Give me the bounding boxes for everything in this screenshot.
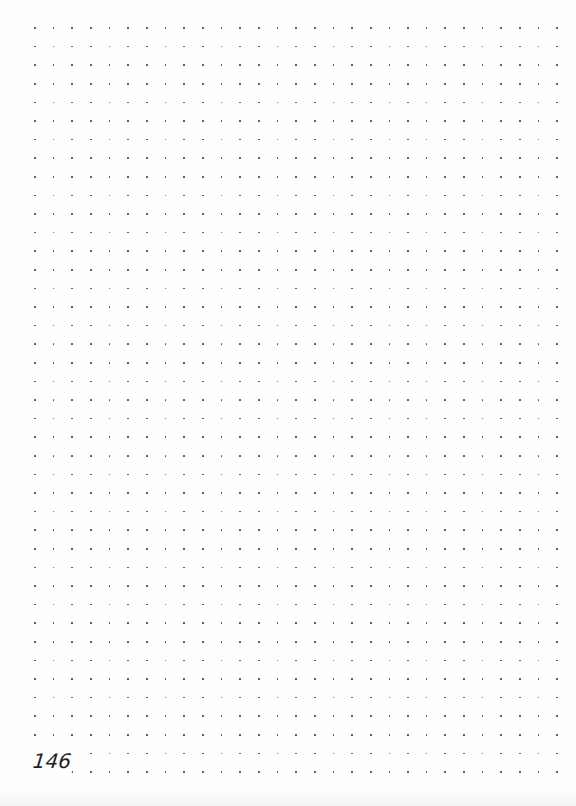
grid-dot [370,660,372,662]
grid-dot [407,213,409,215]
grid-dot [556,288,558,290]
grid-dot [202,195,204,197]
grid-dot [183,64,185,66]
grid-dot [183,381,185,383]
grid-dot [314,139,316,141]
grid-dot [407,492,409,494]
grid-dot [370,418,372,420]
grid-dot [426,604,428,606]
grid-dot [407,660,409,662]
grid-dot [444,436,446,438]
grid-dot [389,548,391,550]
grid-dot [463,622,465,624]
grid-dot [426,232,428,234]
grid-dot [277,771,279,773]
grid-dot [202,343,204,345]
grid-dot [202,176,204,178]
grid-dot [538,139,540,141]
grid-dot [202,157,204,159]
grid-dot [277,585,279,587]
grid-dot [538,715,540,717]
grid-dot [500,436,502,438]
grid-dot [295,64,297,66]
grid-dot [183,399,185,401]
grid-dot [183,771,185,773]
grid-dot [71,548,73,550]
grid-dot [127,567,129,569]
grid-dot [482,325,484,327]
grid-dot [314,715,316,717]
grid-dot [370,195,372,197]
grid-dot [426,306,428,308]
grid-dot [295,455,297,457]
grid-dot [109,753,111,755]
grid-dot [463,660,465,662]
grid-dot [444,250,446,252]
grid-dot [239,399,241,401]
grid-dot [165,697,167,699]
grid-dot [277,492,279,494]
grid-dot [314,250,316,252]
grid-dot [295,474,297,476]
grid-dot [444,771,446,773]
grid-dot [71,157,73,159]
grid-dot [258,455,260,457]
grid-dot [538,120,540,122]
grid-dot [482,604,484,606]
grid-dot [127,381,129,383]
grid-dot [109,250,111,252]
grid-dot [500,455,502,457]
grid-dot [53,157,55,159]
grid-dot [482,176,484,178]
grid-dot [165,325,167,327]
grid-dot [258,64,260,66]
grid-dot [482,83,484,85]
grid-dot [202,641,204,643]
grid-dot [90,697,92,699]
grid-dot [389,306,391,308]
grid-dot [314,213,316,215]
grid-dot [109,139,111,141]
grid-dot [444,678,446,680]
grid-dot [183,325,185,327]
grid-dot [556,102,558,104]
grid-dot [351,139,353,141]
grid-dot [258,195,260,197]
grid-dot [500,250,502,252]
grid-dot [165,102,167,104]
grid-dot [500,771,502,773]
grid-dot [538,325,540,327]
grid-dot [407,325,409,327]
grid-dot [314,641,316,643]
grid-dot [277,269,279,271]
grid-dot [109,213,111,215]
grid-dot [146,771,148,773]
grid-dot [333,381,335,383]
grid-dot [202,492,204,494]
grid-dot [295,418,297,420]
grid-dot [538,46,540,48]
grid-dot [146,362,148,364]
grid-dot [90,660,92,662]
grid-dot [239,232,241,234]
grid-dot [407,269,409,271]
grid-dot [295,139,297,141]
grid-dot [221,511,223,513]
grid-dot [239,715,241,717]
grid-dot [202,269,204,271]
grid-dot [370,306,372,308]
grid-dot [258,102,260,104]
grid-dot [314,529,316,531]
grid-dot [538,622,540,624]
grid-dot [90,418,92,420]
grid-dot [127,474,129,476]
grid-dot [90,381,92,383]
grid-dot [556,474,558,476]
grid-dot [183,46,185,48]
grid-dot [556,343,558,345]
grid-dot [407,474,409,476]
grid-dot [500,548,502,550]
grid-dot [127,306,129,308]
grid-dot [351,418,353,420]
grid-dot [463,436,465,438]
